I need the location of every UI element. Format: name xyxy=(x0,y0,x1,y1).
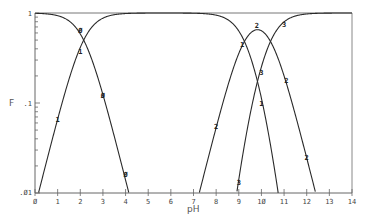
curve-marker-1: 1 xyxy=(78,48,82,56)
x-tick-label: 1Ø xyxy=(257,198,266,206)
curve-marker-1: 1 xyxy=(56,116,60,124)
x-tick-label: 11 xyxy=(280,198,288,206)
curve-markers: ØØØ11112222333 xyxy=(56,21,309,188)
y-tick-label: 1 xyxy=(28,10,32,18)
species-distribution-chart: 1.1.Ø1 Ø1234567891Ø11121314 ØØØ111122223… xyxy=(0,0,366,224)
plot-frame xyxy=(35,13,352,193)
x-tick-label: 14 xyxy=(348,198,356,206)
y-tick-label: .1 xyxy=(24,100,32,108)
species-curve-0 xyxy=(35,13,129,192)
curve-marker-3: 3 xyxy=(237,179,241,187)
x-tick-label: 13 xyxy=(325,198,333,206)
x-tick-label: Ø xyxy=(33,198,38,206)
x-tick-label: 12 xyxy=(302,198,310,206)
curve-marker-3: 3 xyxy=(259,69,263,77)
x-tick-label: 1 xyxy=(56,198,60,206)
x-tick-label: 2 xyxy=(78,198,82,206)
y-axis-ticks: 1.1.Ø1 xyxy=(19,10,40,197)
x-tick-label: 9 xyxy=(237,198,241,206)
curve-marker-0: Ø xyxy=(100,92,106,100)
curve-marker-3: 3 xyxy=(282,21,286,29)
x-axis-label: pH xyxy=(187,204,199,214)
curve-marker-0: Ø xyxy=(77,27,83,35)
species-curve-3 xyxy=(237,13,352,191)
y-axis-label: F xyxy=(9,98,14,108)
curve-marker-1: 1 xyxy=(259,100,263,108)
curve-marker-2: 2 xyxy=(214,123,218,131)
curve-marker-0: Ø xyxy=(122,171,128,179)
x-tick-label: 4 xyxy=(123,198,127,206)
species-curves xyxy=(35,13,352,193)
curve-marker-2: 2 xyxy=(305,154,309,162)
y-tick-label: .Ø1 xyxy=(19,189,32,197)
x-tick-label: 8 xyxy=(214,198,218,206)
species-curve-2 xyxy=(199,30,315,193)
curve-marker-2: 2 xyxy=(284,77,288,85)
curve-marker-2: 2 xyxy=(255,22,259,30)
curve-marker-1: 1 xyxy=(240,41,244,49)
x-tick-label: 5 xyxy=(146,198,150,206)
x-tick-label: 6 xyxy=(169,198,173,206)
x-tick-label: 3 xyxy=(101,198,105,206)
